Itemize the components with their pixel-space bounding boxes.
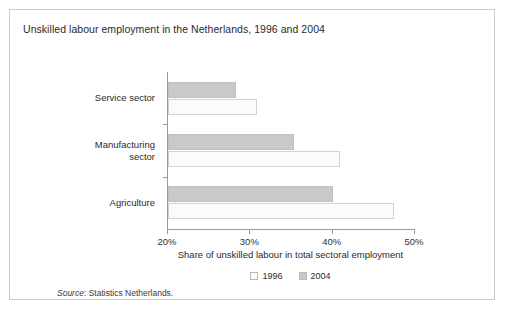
- x-tick-mark: [332, 229, 333, 234]
- y-tick-mark: [163, 124, 167, 125]
- category-label-agriculture: Agriculture: [110, 197, 155, 209]
- bar-group: [168, 134, 415, 167]
- legend-item-1996[interactable]: 1996: [250, 271, 282, 281]
- plot-area: 20%30%40%50%: [167, 72, 414, 229]
- x-tick-mark: [167, 229, 168, 234]
- y-tick-mark: [163, 177, 167, 178]
- legend-swatch-1996: [250, 272, 258, 280]
- x-tick-label: 30%: [240, 236, 259, 247]
- x-tick-label: 20%: [157, 236, 176, 247]
- legend-label-1996: 1996: [262, 271, 282, 281]
- bar-group: [168, 82, 415, 115]
- source-note: Source: Statistics Netherlands.: [57, 288, 173, 298]
- category-axis-labels: Service sectorManufacturing sectorAgricu…: [10, 72, 167, 229]
- bar-2004-agriculture[interactable]: [168, 186, 333, 202]
- bar-2004-service-sector[interactable]: [168, 82, 236, 98]
- figure-card: Unskilled labour employment in the Nethe…: [9, 9, 495, 300]
- bar-group: [168, 186, 415, 219]
- bar-1996-agriculture[interactable]: [168, 203, 394, 219]
- x-axis-line: [167, 229, 414, 230]
- source-value: : Statistics Netherlands.: [84, 288, 173, 298]
- x-tick-label: 50%: [404, 236, 423, 247]
- chart-title: Unskilled labour employment in the Nethe…: [23, 23, 325, 35]
- x-tick-mark: [414, 229, 415, 234]
- x-tick-mark: [249, 229, 250, 234]
- legend-item-2004[interactable]: 2004: [299, 271, 331, 281]
- legend-label-2004: 2004: [311, 271, 331, 281]
- chart-legend: 19962004: [167, 271, 414, 281]
- category-label-manufacturing-sector: Manufacturing sector: [95, 139, 155, 163]
- bar-1996-manufacturing-sector[interactable]: [168, 151, 340, 167]
- bar-2004-manufacturing-sector[interactable]: [168, 134, 294, 150]
- legend-swatch-2004: [299, 272, 307, 280]
- category-label-service-sector: Service sector: [95, 92, 155, 104]
- bar-1996-service-sector[interactable]: [168, 99, 257, 115]
- x-tick-label: 40%: [322, 236, 341, 247]
- x-axis-title: Share of unskilled labour in total secto…: [167, 249, 414, 260]
- source-label: Source: [57, 288, 84, 298]
